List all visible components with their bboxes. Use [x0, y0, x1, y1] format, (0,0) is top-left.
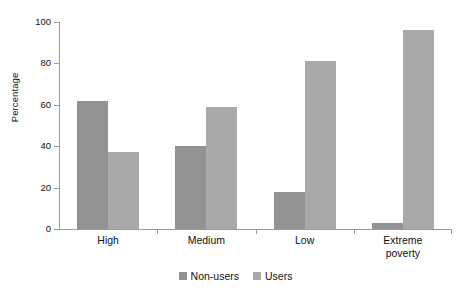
y-tick-label: 60: [19, 99, 51, 110]
bars-layer: [59, 22, 452, 229]
bar: [175, 146, 206, 229]
bar: [274, 192, 305, 229]
bar: [305, 61, 336, 229]
y-tick-label: 100: [19, 16, 51, 27]
x-category-label: Low: [256, 234, 354, 247]
plot-area: 020406080100: [59, 22, 452, 229]
bar: [372, 223, 403, 229]
x-category-label-line: Extreme: [354, 234, 452, 247]
x-category-label: Medium: [157, 234, 255, 247]
bar-chart: Percentage 020406080100 HighMediumLowExt…: [0, 0, 471, 295]
bar: [206, 107, 237, 229]
bar: [77, 101, 108, 229]
y-tick-label: 80: [19, 57, 51, 68]
x-category-label-line: Low: [256, 234, 354, 247]
chart-legend: Non-usersUsers: [0, 270, 471, 282]
x-axis-category-labels: HighMediumLowExtremepoverty: [59, 234, 452, 268]
y-tick-label: 40: [19, 140, 51, 151]
x-category-label-line: Medium: [157, 234, 255, 247]
y-tick-label: 0: [19, 223, 51, 234]
x-category-label-line: High: [59, 234, 157, 247]
legend-label: Users: [265, 270, 292, 282]
x-category-label: Extremepoverty: [354, 234, 452, 260]
bar: [108, 152, 139, 229]
legend-swatch-icon: [253, 272, 261, 280]
x-category-label-line: poverty: [354, 247, 452, 260]
y-axis-title: Percentage: [9, 58, 20, 138]
bar: [403, 30, 434, 229]
x-category-label: High: [59, 234, 157, 247]
legend-label: Non-users: [191, 270, 239, 282]
y-tick-label: 20: [19, 182, 51, 193]
legend-item[interactable]: Users: [253, 270, 292, 282]
legend-item[interactable]: Non-users: [179, 270, 239, 282]
legend-swatch-icon: [179, 272, 187, 280]
y-tick-mark: [54, 229, 59, 230]
